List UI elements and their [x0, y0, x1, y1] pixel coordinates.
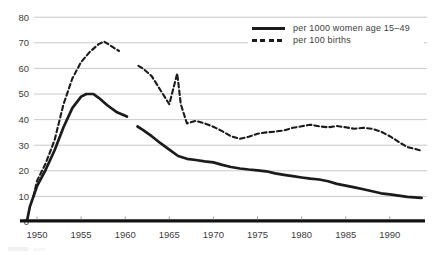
y-tick-label: 20	[18, 165, 29, 176]
series-line-solid	[138, 127, 422, 198]
y-tick-label: 60	[18, 63, 29, 74]
y-tick-label: 50	[18, 88, 29, 99]
x-tick-label: 1980	[291, 229, 312, 240]
legend: per 1000 women age 15–49 per 100 births	[248, 21, 424, 48]
x-tick-label: 1950	[26, 229, 47, 240]
legend-entry-births: per 100 births	[252, 34, 424, 46]
x-tick-label: 1990	[379, 229, 400, 240]
x-tick-label: 1975	[247, 229, 268, 240]
series-line-dashed	[138, 66, 419, 151]
x-tick-label: 1955	[71, 229, 92, 240]
legend-dashed-line-swatch	[252, 39, 285, 42]
y-tick-label: 70	[18, 37, 29, 48]
series-line-solid	[27, 94, 127, 219]
y-tick-label: 80	[18, 12, 29, 23]
y-tick-label: 30	[18, 140, 29, 151]
x-tick-label: 1960	[115, 229, 136, 240]
x-tick-label: 1965	[159, 229, 180, 240]
series-line-dashed	[34, 42, 120, 197]
caption-fragment	[8, 247, 28, 251]
y-tick-label: 40	[18, 114, 29, 125]
line-chart-figure: 0102030405060708019501955196019651970197…	[0, 0, 433, 255]
x-tick-label: 1985	[335, 229, 356, 240]
caption-fragment	[33, 248, 46, 251]
legend-label-women: per 1000 women age 15–49	[293, 23, 410, 33]
x-tick-label: 1970	[203, 229, 224, 240]
legend-solid-line-swatch	[252, 27, 285, 30]
legend-entry-women: per 1000 women age 15–49	[252, 22, 424, 34]
legend-label-births: per 100 births	[293, 35, 351, 45]
y-tick-label: 10	[18, 191, 29, 202]
